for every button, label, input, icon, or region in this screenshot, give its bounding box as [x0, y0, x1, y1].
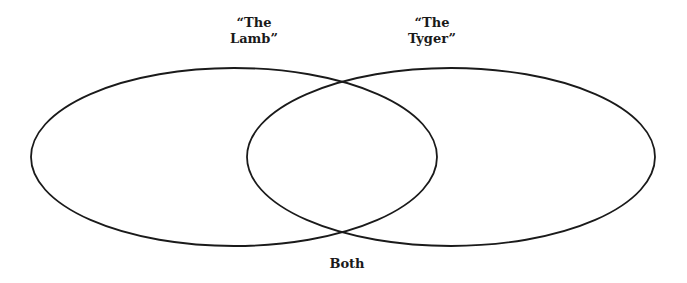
both-label: Both: [329, 256, 364, 272]
intersection-label: Both: [329, 256, 364, 272]
tyger-set-ellipse: [247, 68, 655, 246]
tyger-set-label: “The Tyger”: [408, 15, 456, 47]
lamb-label-line1: “The: [230, 15, 278, 31]
tyger-label-line2: Tyger”: [408, 31, 456, 47]
venn-diagram: [0, 0, 687, 283]
tyger-label-line1: “The: [408, 15, 456, 31]
lamb-set-ellipse: [31, 68, 437, 246]
lamb-set-label: “The Lamb”: [230, 15, 278, 47]
lamb-label-line2: Lamb”: [230, 31, 278, 47]
